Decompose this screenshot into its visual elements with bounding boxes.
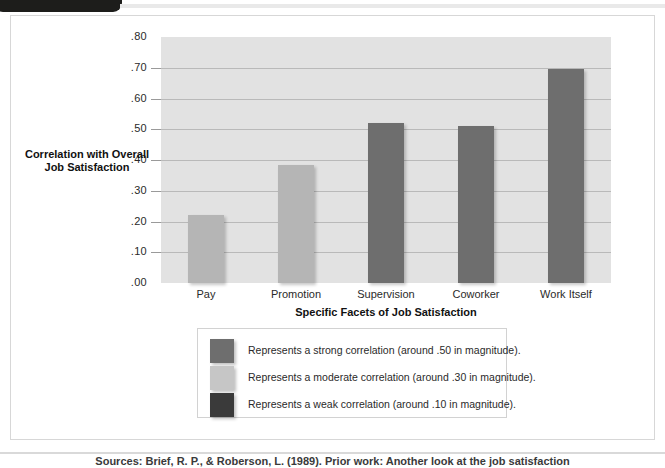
page-corner-tab [0,0,122,12]
x-axis-title: Specific Facets of Job Satisfaction [161,306,611,318]
y-tick-mark [151,222,161,223]
y-tick-mark [151,160,161,161]
y-tick-label: .10 [89,245,147,257]
legend-swatch [210,339,234,363]
legend-label: Represents a moderate correlation (aroun… [248,371,536,383]
y-tick-mark [151,129,161,130]
y-tick-label: .70 [89,61,147,73]
y-tick-mark [151,252,161,253]
y-tick-label: .30 [89,184,147,196]
legend-swatch [210,393,234,417]
legend-label: Represents a strong correlation (around … [248,344,521,356]
gridline [161,99,611,100]
legend-swatch [210,366,234,390]
bar-coworker [458,126,494,283]
y-axis-title: Correlation with Overall Job Satisfactio… [23,148,151,174]
y-tick-label: .20 [89,215,147,227]
gridline [161,68,611,69]
bar-supervision [368,123,404,283]
y-tick-label: .60 [89,92,147,104]
bar-pay [188,215,224,283]
y-tick-label: .50 [89,122,147,134]
chart-legend: Represents a strong correlation (around … [197,328,507,418]
x-tick-label: Work Itself [511,288,621,300]
figure-frame: .80.70.60.50.40.30.20.10.00 Correlation … [10,15,655,440]
y-tick-mark [151,99,161,100]
y-tick-label: .00 [89,276,147,288]
y-tick-mark [151,68,161,69]
bar-promotion [278,165,314,283]
footer-divider [0,452,665,454]
header-divider [120,4,665,8]
y-tick-mark [151,191,161,192]
y-tick-label: .80 [89,30,147,42]
legend-label: Represents a weak correlation (around .1… [248,398,516,410]
bar-chart: .80.70.60.50.40.30.20.10.00 Correlation … [11,16,656,441]
figure-source-caption: Sources: Brief, R. P., & Roberson, L. (1… [0,455,665,468]
bar-work-itself [548,69,584,283]
